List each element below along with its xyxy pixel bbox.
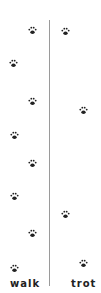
paw-print-icon	[79, 253, 88, 262]
walk-label: walk	[10, 278, 40, 289]
paw-print-icon	[9, 53, 18, 62]
paw-print-icon	[10, 125, 19, 134]
column-divider	[49, 20, 50, 286]
paw-print-icon	[79, 100, 88, 109]
paw-print-icon	[61, 204, 70, 213]
paw-print-icon	[10, 258, 19, 267]
paw-print-icon	[28, 91, 37, 100]
paw-print-icon	[61, 21, 70, 30]
paw-print-icon	[28, 223, 37, 232]
trot-label: trot	[71, 278, 96, 289]
paw-print-icon	[28, 153, 37, 162]
paw-print-icon	[10, 186, 19, 195]
paw-print-icon	[28, 20, 37, 29]
